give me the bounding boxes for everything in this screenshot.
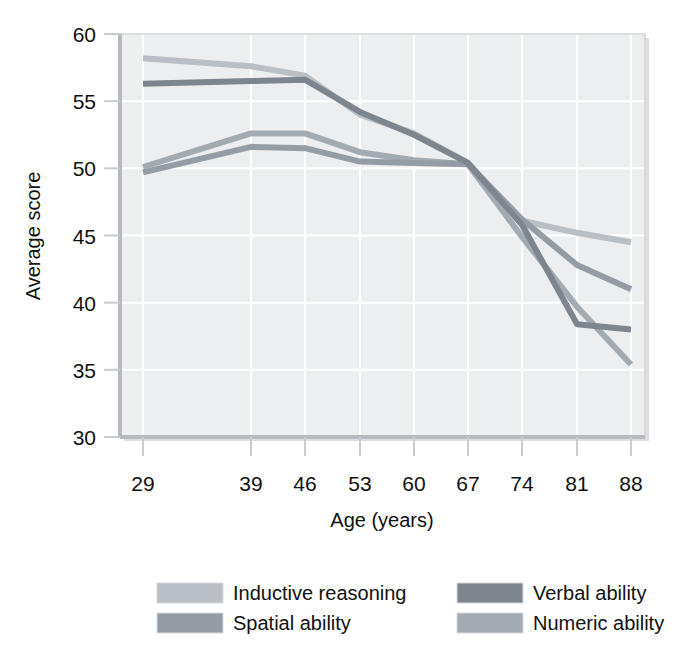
- x-tick-label: 39: [239, 472, 262, 495]
- x-tick-label: 29: [131, 472, 154, 495]
- x-tick-label: 60: [402, 472, 425, 495]
- legend-swatch: [157, 583, 223, 603]
- y-tick-label: 35: [73, 359, 96, 382]
- x-tick-label: 81: [565, 472, 588, 495]
- legend-label: Spatial ability: [233, 612, 351, 634]
- y-tick-label: 60: [73, 23, 96, 46]
- x-tick-label: 67: [456, 472, 479, 495]
- y-tick-label: 30: [73, 426, 96, 449]
- x-tick-label: 74: [510, 472, 534, 495]
- y-tick-label: 50: [73, 157, 96, 180]
- legend-swatch: [457, 583, 523, 603]
- y-axis-title: Average score: [22, 172, 44, 301]
- y-tick-label: 45: [73, 225, 96, 248]
- x-tick-label: 88: [619, 472, 642, 495]
- legend-label: Verbal ability: [533, 582, 646, 604]
- x-tick-label: 53: [348, 472, 371, 495]
- line-chart-svg: 30354045505560 293946536067748188 Averag…: [0, 0, 696, 650]
- legend-label: Numeric ability: [533, 612, 664, 634]
- x-tick-label: 46: [293, 472, 316, 495]
- legend-label: Inductive reasoning: [233, 582, 406, 604]
- y-tick-label: 55: [73, 90, 96, 113]
- chart-figure: 30354045505560 293946536067748188 Averag…: [0, 0, 696, 650]
- legend-swatch: [157, 613, 223, 633]
- y-tick-label: 40: [73, 292, 96, 315]
- legend-swatch: [457, 613, 523, 633]
- x-axis-title: Age (years): [330, 509, 433, 531]
